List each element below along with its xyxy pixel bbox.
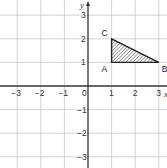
y-tick-label: −2 — [77, 128, 87, 138]
y-tick-label: 1 — [81, 57, 86, 67]
axes: yx — [0, 0, 167, 168]
x-tick-label: 0 — [82, 88, 87, 98]
x-tick-label: −1 — [58, 88, 68, 98]
coordinate-grid: yx −3−2−10123−3−2−1123 ABC — [0, 0, 167, 168]
x-tick-label: −3 — [11, 88, 21, 98]
x-tick-label: 3 — [156, 88, 161, 98]
x-axis-label: x — [163, 89, 167, 99]
vertex-label-b: B — [162, 64, 167, 74]
vertex-label-a: A — [102, 64, 108, 74]
y-tick-label: −3 — [77, 152, 87, 162]
y-axis-label: y — [79, 0, 84, 10]
x-tick-label: 1 — [109, 88, 114, 98]
y-tick-label: 2 — [81, 34, 86, 44]
y-axis-arrow-icon — [86, 1, 90, 6]
grid-lines — [0, 0, 167, 168]
x-tick-label: 2 — [133, 88, 138, 98]
x-tick-label: −2 — [35, 88, 45, 98]
y-tick-label: −1 — [77, 105, 87, 115]
y-tick-label: 3 — [81, 10, 86, 20]
vertex-label-c: C — [102, 28, 108, 38]
